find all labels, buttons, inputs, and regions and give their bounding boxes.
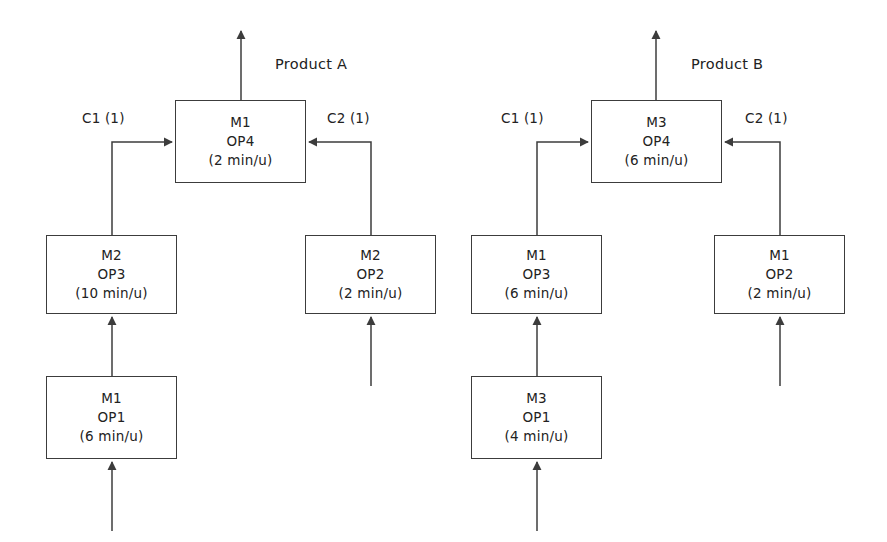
node-b-m1-op2[interactable]: M1 OP2 (2 min/u) bbox=[714, 235, 845, 314]
node-time-label: (2 min/u) bbox=[209, 151, 273, 170]
node-time-label: (6 min/u) bbox=[505, 284, 569, 303]
product-a-label: Product A bbox=[275, 56, 347, 72]
node-time-label: (4 min/u) bbox=[505, 427, 569, 446]
node-machine-label: M2 bbox=[101, 246, 122, 265]
node-operation-label: OP2 bbox=[766, 265, 794, 284]
edge-label-a-c2: C2 (1) bbox=[327, 110, 370, 126]
node-time-label: (10 min/u) bbox=[75, 284, 148, 303]
edge-label-a-c1: C1 (1) bbox=[82, 110, 125, 126]
node-time-label: (2 min/u) bbox=[339, 284, 403, 303]
edge-label-b-c2: C2 (1) bbox=[745, 110, 788, 126]
node-machine-label: M1 bbox=[769, 246, 790, 265]
node-machine-label: M2 bbox=[360, 246, 381, 265]
node-machine-label: M1 bbox=[230, 113, 251, 132]
node-b-m3-op4[interactable]: M3 OP4 (6 min/u) bbox=[591, 100, 722, 183]
diagram-text-layer: Product A Product B C1 (1) C2 (1) C1 (1)… bbox=[0, 0, 887, 542]
node-b-m3-op1[interactable]: M3 OP1 (4 min/u) bbox=[471, 376, 602, 459]
node-a-m2-op3[interactable]: M2 OP3 (10 min/u) bbox=[46, 235, 177, 314]
node-operation-label: OP3 bbox=[523, 265, 551, 284]
node-operation-label: OP4 bbox=[227, 132, 255, 151]
node-machine-label: M1 bbox=[101, 389, 122, 408]
node-operation-label: OP2 bbox=[357, 265, 385, 284]
product-b-label: Product B bbox=[691, 56, 763, 72]
node-time-label: (6 min/u) bbox=[625, 151, 689, 170]
node-time-label: (6 min/u) bbox=[80, 427, 144, 446]
node-machine-label: M3 bbox=[646, 113, 667, 132]
node-operation-label: OP4 bbox=[643, 132, 671, 151]
node-operation-label: OP1 bbox=[523, 408, 551, 427]
edge-label-b-c1: C1 (1) bbox=[501, 110, 544, 126]
node-operation-label: OP1 bbox=[98, 408, 126, 427]
node-a-m1-op4[interactable]: M1 OP4 (2 min/u) bbox=[175, 100, 306, 183]
node-a-m2-op2[interactable]: M2 OP2 (2 min/u) bbox=[305, 235, 436, 314]
node-machine-label: M3 bbox=[526, 389, 547, 408]
node-a-m1-op1[interactable]: M1 OP1 (6 min/u) bbox=[46, 376, 177, 459]
node-b-m1-op3[interactable]: M1 OP3 (6 min/u) bbox=[471, 235, 602, 314]
node-time-label: (2 min/u) bbox=[748, 284, 812, 303]
node-machine-label: M1 bbox=[526, 246, 547, 265]
node-operation-label: OP3 bbox=[98, 265, 126, 284]
